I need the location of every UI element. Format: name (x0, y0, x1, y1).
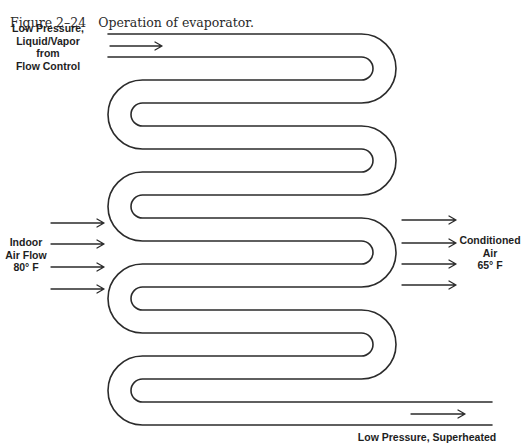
evaporator-coil-tube (108, 34, 492, 425)
flow-arrows (51, 42, 465, 418)
indoor-air-arrow-icon (51, 240, 104, 248)
conditioned-air-arrow-icon (402, 239, 456, 247)
conditioned-air-label-line: Conditioned (456, 234, 524, 247)
indoor-air-arrow-icon (51, 285, 104, 293)
inlet-label-line: Liquid/Vapor (0, 35, 96, 48)
conditioned-air-label-line: 65° F (456, 259, 524, 272)
coil-tube-path (108, 34, 492, 425)
indoor-air-label: Indoor Air Flow 80° F (0, 236, 52, 274)
indoor-air-arrow-icon (51, 263, 104, 271)
outlet-label: Low Pressure, Superheated (352, 431, 502, 444)
indoor-air-label-line: Air Flow (0, 249, 52, 262)
inlet-label-line: Flow Control (0, 60, 96, 73)
inlet-label: Low Pressure, Liquid/Vapor from Flow Con… (0, 22, 96, 72)
indoor-air-label-line: Indoor (0, 236, 52, 249)
outlet-label-line: Low Pressure, Superheated (352, 431, 502, 444)
conditioned-air-arrow-icon (402, 216, 456, 224)
conditioned-air-arrow-icon (402, 260, 456, 268)
conditioned-air-arrow-icon (402, 281, 456, 289)
indoor-air-arrow-icon (51, 219, 104, 227)
inlet-label-line: Low Pressure, (0, 22, 96, 35)
inlet-label-line: from (0, 47, 96, 60)
refrigerant-outlet-arrow-icon (411, 410, 465, 418)
indoor-air-label-line: 80° F (0, 261, 52, 274)
refrigerant-inlet-arrow-icon (110, 42, 162, 50)
conditioned-air-label: Conditioned Air 65° F (456, 234, 524, 272)
conditioned-air-label-line: Air (456, 247, 524, 260)
